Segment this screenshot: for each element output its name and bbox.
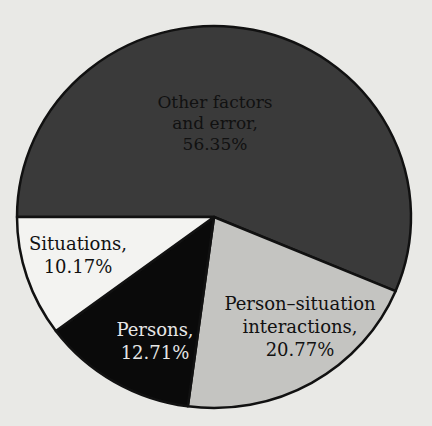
label-value: 20.77% [210, 338, 390, 361]
label-line: Situations, [22, 232, 134, 255]
pie-chart [0, 0, 432, 426]
label-persons: Persons, 12.71% [105, 318, 205, 364]
label-line: Other factors [135, 92, 295, 113]
label-person-situation: Person–situation interactions, 20.77% [210, 292, 390, 361]
label-value: 56.35% [135, 134, 295, 155]
label-line: Persons, [105, 318, 205, 341]
label-line: and error, [135, 113, 295, 134]
label-value: 12.71% [105, 341, 205, 364]
label-situations: Situations, 10.17% [22, 232, 134, 278]
label-value: 10.17% [22, 255, 134, 278]
label-other-factors: Other factors and error, 56.35% [135, 92, 295, 155]
label-line: interactions, [210, 315, 390, 338]
label-line: Person–situation [210, 292, 390, 315]
